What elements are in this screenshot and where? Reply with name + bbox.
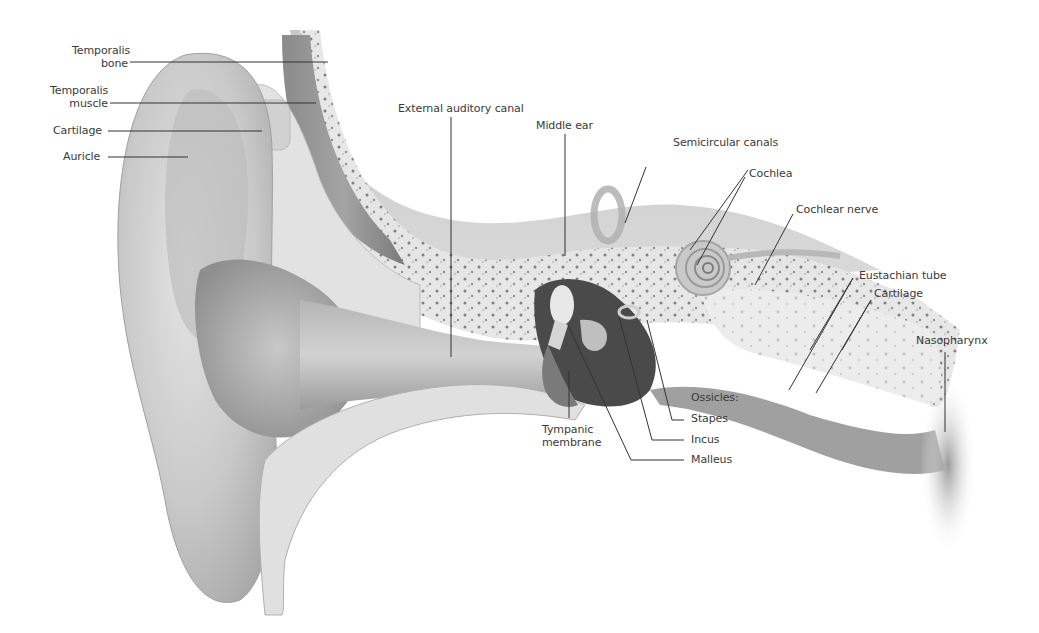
- label-line: membrane: [542, 436, 601, 449]
- label-line: Temporalis: [72, 44, 128, 57]
- label-line: bone: [72, 57, 128, 70]
- label-line: muscle: [50, 97, 108, 110]
- label-tympanic-membrane: Tympanic membrane: [542, 423, 601, 449]
- malleus-shape: [550, 285, 574, 325]
- label-cartilage-right: Cartilage: [874, 287, 923, 300]
- label-ossicles: Ossicles:: [691, 391, 739, 404]
- ear-illustration: [0, 0, 1039, 633]
- label-cochlea: Cochlea: [749, 167, 792, 180]
- nasopharynx-shape: [920, 375, 976, 555]
- label-middle-ear: Middle ear: [536, 119, 593, 132]
- label-cartilage-left: Cartilage: [53, 124, 102, 137]
- label-temporalis-muscle: Temporalis muscle: [50, 84, 108, 110]
- label-incus: Incus: [691, 433, 719, 446]
- label-malleus: Malleus: [691, 453, 732, 466]
- label-line: Tympanic: [542, 423, 601, 436]
- label-temporalis-bone: Temporalis bone: [72, 44, 128, 70]
- label-nasopharynx: Nasopharynx: [916, 334, 988, 347]
- label-external-auditory-canal: External auditory canal: [398, 102, 524, 115]
- label-cochlear-nerve: Cochlear nerve: [796, 203, 878, 216]
- label-semicircular-canals: Semicircular canals: [673, 136, 778, 149]
- label-auricle: Auricle: [63, 150, 100, 163]
- label-stapes: Stapes: [691, 412, 728, 425]
- cochlea-shape: [676, 241, 730, 295]
- label-line: Temporalis: [50, 84, 108, 97]
- ear-anatomy-diagram: Temporalis bone Temporalis muscle Cartil…: [0, 0, 1039, 633]
- label-eustachian-tube: Eustachian tube: [859, 269, 947, 282]
